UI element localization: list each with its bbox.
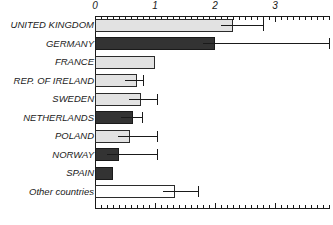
bar-row: POLAND xyxy=(0,127,333,146)
bar-row: Other countries xyxy=(0,183,333,202)
category-label: UNITED KINGDOM xyxy=(11,16,94,35)
x-axis-tick-labels: 0123 xyxy=(0,0,333,14)
error-bar xyxy=(107,154,157,155)
bar-france xyxy=(95,56,155,69)
category-label: FRANCE xyxy=(55,53,94,72)
bar-row: REP. OF IRELAND xyxy=(0,72,333,91)
error-bar xyxy=(221,25,263,26)
error-bar-cap xyxy=(142,112,143,123)
bar-row: GERMANY xyxy=(0,35,333,54)
category-label: SPAIN xyxy=(66,164,94,183)
category-label: POLAND xyxy=(55,127,94,146)
error-bar xyxy=(121,117,142,118)
error-bar-cap xyxy=(157,149,158,160)
x-axis-label-0: 0 xyxy=(92,0,98,12)
x-axis-label-1: 1 xyxy=(152,0,158,12)
category-label: GERMANY xyxy=(46,35,94,54)
bar-row: FRANCE xyxy=(0,53,333,72)
bar-chart: 0123 UNITED KINGDOMGERMANYFRANCEREP. OF … xyxy=(0,0,333,225)
category-label: Other countries xyxy=(29,183,94,202)
error-bar xyxy=(163,191,198,192)
error-bar-cap xyxy=(329,38,330,49)
bar-row: UNITED KINGDOM xyxy=(0,16,333,35)
error-bar-cap xyxy=(143,75,144,86)
category-label: REP. OF IRELAND xyxy=(14,72,94,91)
category-label: NETHERLANDS xyxy=(23,109,94,128)
bar-row: NETHERLANDS xyxy=(0,109,333,128)
error-bar xyxy=(118,136,157,137)
error-bar xyxy=(129,99,157,100)
bar-rows: UNITED KINGDOMGERMANYFRANCEREP. OF IRELA… xyxy=(0,16,333,209)
error-bar-cap xyxy=(263,20,264,31)
error-bar xyxy=(203,43,329,44)
error-bar-cap xyxy=(198,186,199,197)
x-axis-label-2: 2 xyxy=(212,0,218,12)
x-axis-label-3: 3 xyxy=(272,0,278,12)
category-label: SWEDEN xyxy=(52,90,94,109)
error-bar-cap xyxy=(157,131,158,142)
category-label: NORWAY xyxy=(52,146,94,165)
error-bar-cap xyxy=(157,94,158,105)
bar-row: SWEDEN xyxy=(0,90,333,109)
bar-row: NORWAY xyxy=(0,146,333,165)
bar-row: SPAIN xyxy=(0,164,333,183)
error-bar xyxy=(125,80,143,81)
bar-germany xyxy=(95,37,215,50)
bar-spain xyxy=(95,167,113,180)
bar-united-kingdom xyxy=(95,19,233,32)
